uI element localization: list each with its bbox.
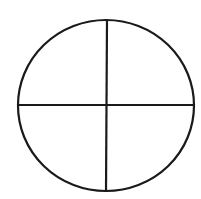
quadrant-circle-diagram [0, 0, 201, 199]
background [0, 0, 201, 199]
vertical-divider-line [106, 20, 107, 191]
